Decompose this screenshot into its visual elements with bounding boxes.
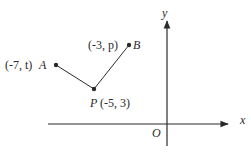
x-axis-label: x bbox=[239, 113, 246, 127]
point-a bbox=[54, 63, 58, 67]
point-p-name-label: P bbox=[89, 96, 98, 110]
point-p-coord-label: (-5, 3) bbox=[100, 96, 130, 110]
point-a-coord-label: (-7, t) bbox=[5, 58, 32, 72]
point-b-coord-label: (-3, p) bbox=[88, 38, 118, 52]
point-b-name-label: B bbox=[133, 38, 141, 52]
point-p bbox=[92, 87, 96, 91]
point-b bbox=[127, 43, 131, 47]
origin-label: O bbox=[152, 126, 161, 140]
point-a-name-label: A bbox=[38, 58, 47, 72]
coordinate-diagram: (-7, t) A (-3, p) B P (-5, 3) y x O bbox=[0, 0, 251, 154]
y-axis-label: y bbox=[161, 6, 168, 20]
segment-ap bbox=[56, 65, 94, 89]
